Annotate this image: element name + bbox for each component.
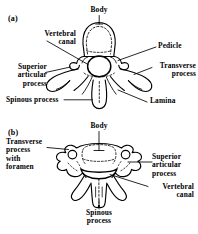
leader-pedicle [118, 47, 156, 61]
label-superior-articular-process-a: Superiorarticularprocess [2, 63, 47, 88]
label-transverse-process-with-foramen-b: Transverseprocesswithforamen [6, 138, 42, 171]
transverse-foramen-right [121, 150, 130, 159]
panel-b: (b) [0, 117, 198, 234]
cervical-lamina-right [107, 176, 126, 200]
pedicle-right-inner [111, 57, 117, 63]
leader-lamina [118, 90, 147, 102]
pedicle-left-inner [82, 57, 88, 63]
cervical-stipple [68, 162, 130, 172]
spinous-process-left-tubercle [91, 183, 99, 208]
lamina-right-inner [106, 77, 116, 94]
label-body-a: Body [78, 6, 120, 14]
cervical-lamina-left [72, 176, 91, 200]
vertebra-figure: (a) [0, 0, 198, 234]
label-spinous-process-a: Spinous process [6, 96, 58, 104]
label-transverse-process-a: Transverseprocess [146, 62, 196, 79]
label-body-b: Body [78, 122, 120, 130]
label-line: process [87, 216, 111, 225]
vertebral-body-inner-dashed [86, 26, 111, 54]
label-line: canal [58, 37, 76, 46]
label-line: canal [176, 190, 194, 199]
label-spinous-process-b: Spinousprocess [72, 209, 126, 226]
label-vertebral-canal-a: Vertebralcanal [6, 30, 76, 47]
cervical-body-dashed-left [82, 150, 85, 164]
label-line: process [23, 79, 47, 88]
label-superior-articular-process-b: Superiorarticularprocess [152, 153, 181, 178]
transverse-process-left [46, 69, 78, 91]
panel-a: (a) [0, 0, 198, 117]
label-vertebral-canal-b: Vertebralcanal [140, 183, 194, 200]
label-line: process [152, 169, 176, 178]
vertebral-canal-opening [88, 56, 111, 77]
label-lamina-a: Lamina [150, 97, 176, 105]
body-endplate-dashed [87, 51, 112, 53]
cervical-body-endplate-dashed [84, 159, 115, 161]
label-line: foramen [6, 162, 34, 171]
transverse-foramen-left [68, 150, 77, 159]
lamina-left-inner [82, 77, 92, 94]
label-pedicle-a: Pedicle [158, 42, 182, 50]
spinous-process-right-tubercle [99, 183, 107, 208]
label-line: process [172, 69, 196, 78]
